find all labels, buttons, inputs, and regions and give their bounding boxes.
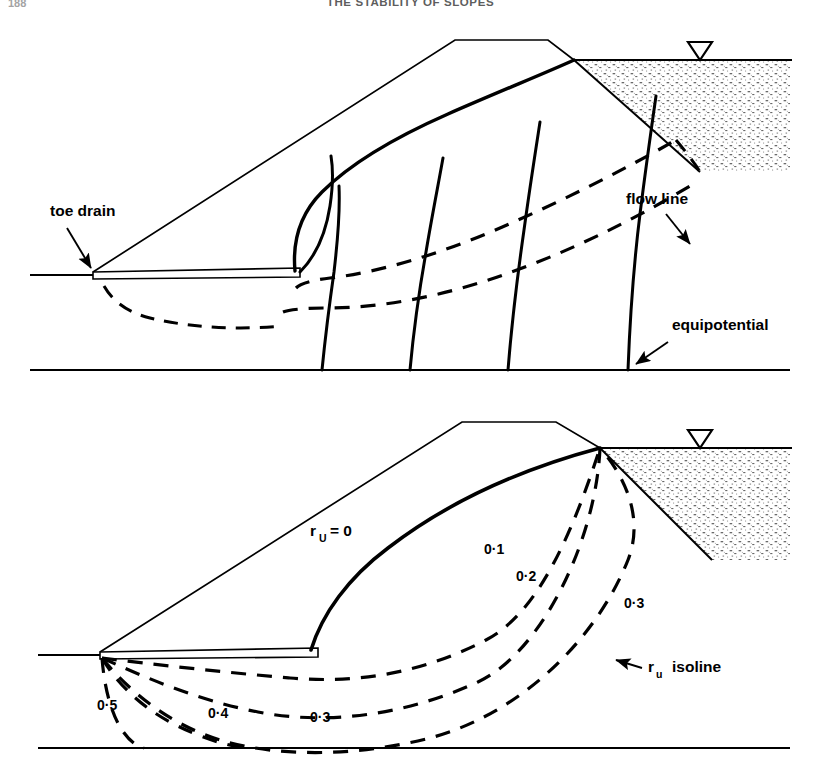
label-ru-zero-symbol: r <box>310 522 316 539</box>
label-ru-isoline-subscript: u <box>656 668 662 680</box>
label-toe-drain: toe drain <box>50 202 115 219</box>
label-ru-zero-equals: = 0 <box>330 522 352 539</box>
label-ru-zero-subscript: U <box>319 532 327 544</box>
embankment-outline <box>93 40 574 272</box>
leader-flow-line <box>666 214 690 244</box>
leader-toe-drain <box>67 228 91 268</box>
toe-drain-channel <box>100 648 318 659</box>
ru-contour-0 <box>311 448 600 650</box>
flow-line <box>104 286 282 328</box>
equipotential-line <box>508 122 540 370</box>
toe-drain-channel <box>93 268 300 279</box>
leader-equipotential <box>636 342 668 364</box>
leader-ru-isoline <box>616 660 642 668</box>
contour-label: 0·2 <box>516 568 536 584</box>
contour-label: 0·5 <box>97 697 117 713</box>
figure-svg: toe drain flow line equipotential <box>0 0 821 783</box>
label-equipotential: equipotential <box>672 316 768 333</box>
label-ru-isoline-text: isoline <box>672 658 721 675</box>
label-ru-isoline-group: r u isoline <box>648 658 721 680</box>
label-ru-zero-group: r U = 0 <box>310 522 352 544</box>
contour-label: 0·3 <box>310 709 330 725</box>
page-canvas: 188 THE STABILITY OF SLOPES <box>0 0 821 783</box>
flow-net-panel: toe drain flow line equipotential <box>30 40 792 370</box>
ru-isoline-panel: r U = 0 0·1 0·2 0·3 0·3 0·4 0·5 r u isol… <box>38 422 792 753</box>
water-table-triangle-icon <box>688 42 712 60</box>
flow-line <box>296 140 676 288</box>
contour-label: 0·1 <box>484 541 504 557</box>
label-ru-isoline-symbol: r <box>648 658 654 675</box>
contour-label: 0·4 <box>208 705 228 721</box>
contour-label: 0·3 <box>624 595 644 611</box>
water-table-triangle-icon <box>688 430 712 448</box>
label-flow-line: flow line <box>626 190 688 207</box>
equipotential-line <box>410 158 443 370</box>
equipotential-line <box>628 96 656 370</box>
